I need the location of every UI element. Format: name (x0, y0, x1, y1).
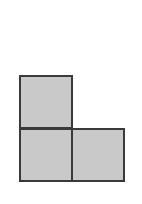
square-bottom-left (19, 128, 73, 182)
square-top-left (19, 75, 73, 129)
l-tromino-diagram (0, 0, 142, 204)
square-bottom-right (71, 128, 125, 182)
